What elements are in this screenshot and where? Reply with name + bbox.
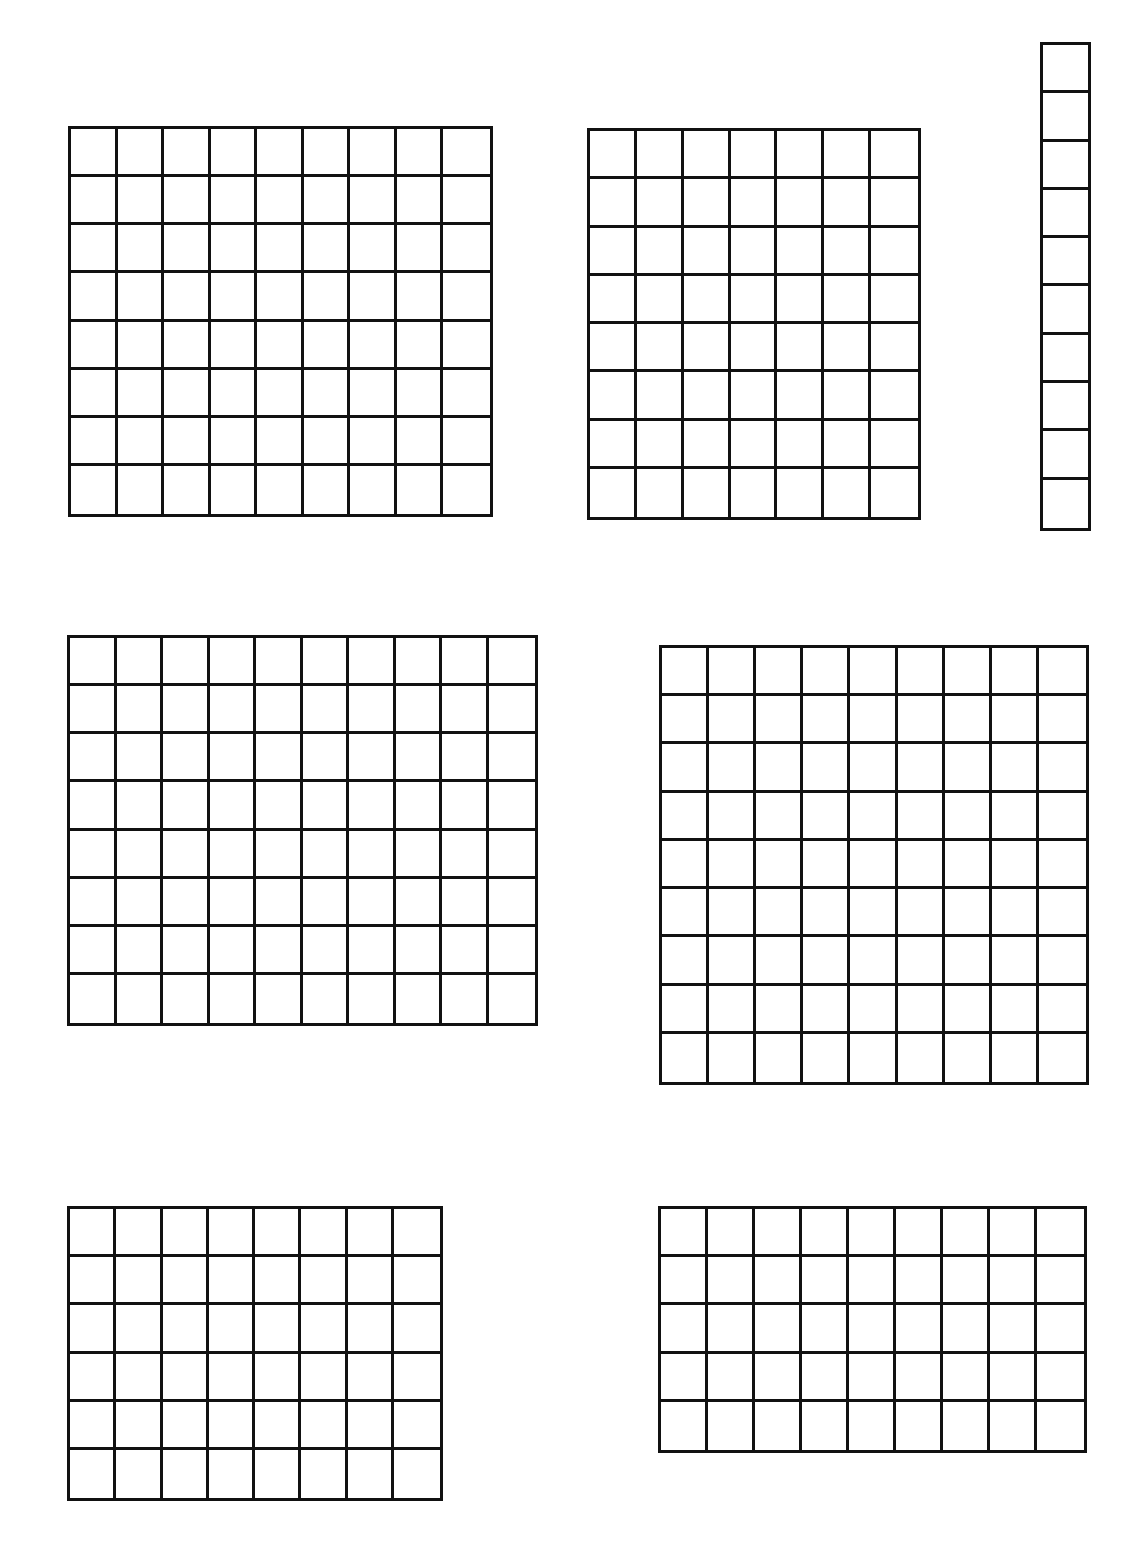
grid-cell [396,734,443,782]
grid-cell [443,370,490,418]
grid-cell [945,1034,992,1082]
grid-cell [163,927,210,975]
grid-cell [394,1354,440,1402]
grid-cell [71,466,118,514]
grid-cell [756,986,803,1034]
grid-cell [303,831,350,879]
grid-cell [871,372,918,420]
grid-cell [709,744,756,792]
grid-cell [443,129,490,177]
grid-cell [802,1402,849,1450]
grid-cell [257,418,304,466]
grid-cell [850,986,897,1034]
grid-cell [945,986,992,1034]
grid-cell [849,1209,896,1257]
grid-cell [70,1402,116,1450]
grid-8x6-bottom-left [67,1206,443,1501]
grid-cell [896,1354,943,1402]
grid-cell [348,1209,394,1257]
grid-cell [70,686,117,734]
grid-cell [731,372,778,420]
grid-cell [209,1209,255,1257]
grid-cell [396,831,443,879]
grid-cell [257,177,304,225]
grid-cell [116,1257,162,1305]
grid-cell [442,831,489,879]
grid-cell [255,1305,301,1353]
grid-cell [443,418,490,466]
grid-cell [850,841,897,889]
grid-cell [871,276,918,324]
grid-cell [590,372,637,420]
grid-cell [945,937,992,985]
grid-cell [117,975,164,1023]
grid-cell [397,225,444,273]
grid-cell [661,1209,708,1257]
grid-cell [255,1354,301,1402]
grid-cell [349,638,396,686]
grid-cell [117,879,164,927]
grid-cell [871,228,918,276]
grid-cell [349,927,396,975]
grid-cell [348,1257,394,1305]
grid-cell [70,638,117,686]
grid-cell [350,370,397,418]
grid-cell [489,734,536,782]
grid-cell [990,1257,1037,1305]
grid-cell [256,879,303,927]
grid-cell [397,273,444,321]
grid-cell [731,421,778,469]
grid-cell [256,927,303,975]
grid-cell [396,879,443,927]
grid-cell [443,322,490,370]
grid-cell [756,648,803,696]
grid-cell [489,879,536,927]
grid-cell [850,1034,897,1082]
grid-cell [731,179,778,227]
grid-cell [871,131,918,179]
grid-cell [1039,696,1086,744]
grid-cell [898,986,945,1034]
grid-cell [824,228,871,276]
grid-cell [209,1305,255,1353]
grid-cell [871,421,918,469]
grid-cell [164,129,211,177]
grid-cell [992,793,1039,841]
grid-cell [756,696,803,744]
grid-cell [118,225,165,273]
grid-cell [662,889,709,937]
grid-cell [257,466,304,514]
grid-cell [849,1305,896,1353]
grid-cell [442,782,489,830]
grid-cell [349,831,396,879]
grid-cell [350,418,397,466]
grid-9x5-bottom-right [658,1206,1087,1453]
grid-cell [637,179,684,227]
grid-cell [349,879,396,927]
grid-cell [211,322,258,370]
grid-cell [397,370,444,418]
grid-cell [394,1257,440,1305]
grid-cell [255,1450,301,1498]
grid-cell [301,1354,347,1402]
grid-cell [990,1305,1037,1353]
grid-cell [304,129,351,177]
grid-cell [1043,93,1088,141]
grid-cell [684,131,731,179]
grid-cell [489,638,536,686]
grid-cell [348,1402,394,1450]
grid-cell [303,782,350,830]
grid-cell [303,927,350,975]
grid-cell [301,1209,347,1257]
grid-cell [443,273,490,321]
grid-cell [163,1402,209,1450]
grid-cell [304,418,351,466]
grid-cell [163,734,210,782]
grid-cell [443,466,490,514]
grid-cell [898,793,945,841]
grid-cell [777,179,824,227]
grid-cell [590,421,637,469]
grid-cell [489,831,536,879]
grid-cell [163,686,210,734]
strip-1x10-top-right [1040,42,1091,531]
